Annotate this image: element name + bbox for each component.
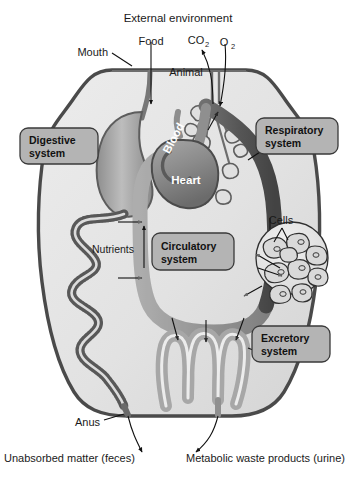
respiratory-box-line2: system <box>265 137 301 149</box>
digestive-box-line1: Digestive <box>29 134 76 146</box>
feces-output-arrow <box>128 416 142 452</box>
svg-text:2: 2 <box>231 42 235 51</box>
system-box-circulatory[interactable]: Circulatory system <box>152 233 234 270</box>
digestive-box-line2: system <box>29 147 65 159</box>
circulatory-box-line1: Circulatory <box>161 240 217 252</box>
mouth-label: Mouth <box>77 46 108 58</box>
svg-text:O: O <box>220 36 229 48</box>
respiratory-box-line1: Respiratory <box>265 124 324 136</box>
svg-text:CO: CO <box>188 34 205 46</box>
heart-label: Heart <box>171 174 201 186</box>
urine-label: Metabolic waste products (urine) <box>186 452 345 464</box>
anus-label: Anus <box>75 416 101 428</box>
cells-label: Cells <box>269 214 294 226</box>
nutrients-label: Nutrients <box>92 243 134 255</box>
system-box-digestive[interactable]: Digestive system <box>20 128 98 164</box>
mouth-leader <box>112 53 132 66</box>
urine-output-arrow <box>196 416 218 452</box>
system-box-respiratory[interactable]: Respiratory system <box>256 118 338 154</box>
food-label: Food <box>138 35 163 47</box>
co2-label: CO 2 <box>188 34 209 49</box>
circulatory-box-line2: system <box>161 253 197 265</box>
svg-text:2: 2 <box>205 40 209 49</box>
excretory-box-line1: Excretory <box>261 332 310 344</box>
system-box-excretory[interactable]: Excretory system <box>252 326 330 362</box>
feces-label: Unabsorbed matter (feces) <box>4 452 135 464</box>
animal-label: Animal <box>169 66 203 78</box>
external-environment-label: External environment <box>124 12 233 24</box>
o2-label: O 2 <box>220 36 235 51</box>
organ-systems-figure: External environment Mouth Food CO 2 O 2… <box>0 0 356 477</box>
diagram-canvas: External environment Mouth Food CO 2 O 2… <box>0 0 356 477</box>
excretory-box-line2: system <box>261 345 297 357</box>
